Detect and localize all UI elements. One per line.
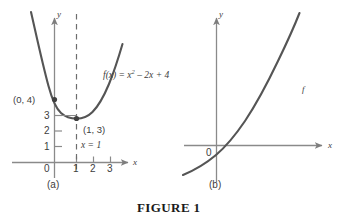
equation-prefix: f(x) = x [103,70,132,80]
panel-a-symmetry-label: x = 1 [81,141,101,151]
panel-a-x-tick-label-2: 2 [90,164,96,174]
panel-a-y-tick-label-3: 3 [44,111,50,121]
panel-b-y-axis-label: y [219,10,223,19]
panel-a-origin-label: 0 [44,164,50,174]
panel-b-tag: (b) [209,180,221,190]
panel-a-x-tick-label-3: 3 [107,164,113,174]
panel-a-y-intercept-label: (0, 4) [13,95,35,105]
figure-container: y x 0 1 2 3 1 2 3 (0, 4) (1, 3) x = 1 f(… [0,0,348,222]
panel-a-tag: (a) [47,180,59,190]
panel-a-vertex-label: (1, 3) [83,125,105,135]
panel-b-curve [183,13,300,175]
panel-a-y-intercept-dot [52,97,57,102]
equation-suffix: – 2x + 4 [135,70,169,80]
panel-b-x-axis-label: x [328,141,332,150]
panel-b-graphics [183,13,322,182]
panel-b-origin-label: 0 [206,148,212,158]
panel-a-x-axis-label: x [133,158,137,167]
panel-a-y-tick-label-1: 1 [44,142,50,152]
panel-a-function-equation: f(x) = x2 – 2x + 4 [103,71,169,81]
figure-caption: FIGURE 1 [137,200,201,216]
panel-a-y-tick-label-2: 2 [44,126,50,136]
panel-a-x-tick-label-1: 1 [73,164,79,174]
panel-a-vertex-dot [74,116,79,121]
panel-b-curve-label: f [302,85,305,94]
panel-a-y-axis-label: y [57,10,61,19]
